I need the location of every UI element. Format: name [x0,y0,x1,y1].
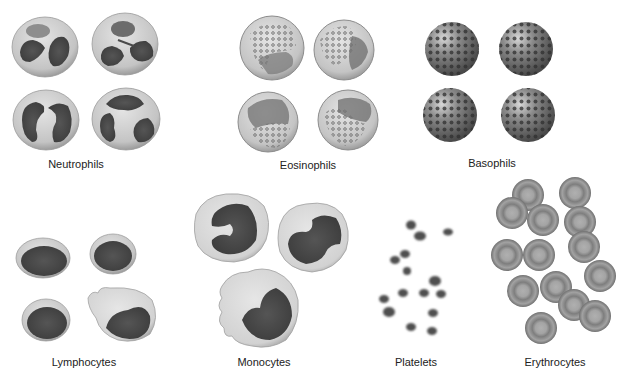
cell-illustrations [0,0,631,377]
platelet [406,323,416,331]
platelet [400,250,410,258]
neutrophil-cell [13,90,79,150]
label-platelets: Platelets [395,356,437,368]
erythrocyte [584,260,616,292]
platelet-group [379,221,453,336]
eosinophil-group [238,16,378,152]
platelet [383,307,395,317]
erythrocyte [496,197,528,229]
label-lymphocytes: Lymphocytes [52,356,116,368]
platelet [419,289,429,297]
erythrocyte [559,177,591,209]
lymphocyte-group [16,234,156,341]
basophil-cell [499,22,553,76]
eosinophil-cell [238,92,298,152]
label-basophils: Basophils [468,157,516,169]
platelet [427,327,437,335]
eosinophil-cell [240,16,304,80]
platelet [379,295,389,303]
platelet [398,289,408,297]
neutrophil-cell [12,17,78,77]
lymphocyte-cell [90,234,136,274]
label-eosinophils: Eosinophils [280,159,336,171]
platelet [436,290,446,298]
platelet [443,229,453,236]
erythrocyte [527,204,559,236]
label-neutrophils: Neutrophils [48,158,104,170]
neutrophil-group [12,13,160,150]
erythrocyte-group [491,177,616,344]
platelet [428,309,438,317]
label-erythrocytes: Erythrocytes [524,356,585,368]
basophil-cell [425,22,479,76]
lymphocyte-cell [16,238,70,278]
erythrocyte [507,275,539,307]
eosinophil-cell [318,90,378,150]
monocyte-cell [278,203,348,272]
erythrocyte [568,231,600,263]
erythrocyte [491,239,523,271]
platelet [406,221,416,230]
lymphocyte-cell [22,299,70,341]
blood-cell-types-figure: Neutrophils Eosinophils Basophils Lympho… [0,0,631,377]
platelet [403,267,411,275]
erythrocyte [579,300,611,332]
monocyte-cell [219,269,298,347]
neutrophil-cell [92,13,158,75]
basophil-cell [501,88,555,142]
platelet [414,232,426,241]
eosinophil-cell [314,20,374,80]
platelet [390,256,400,264]
basophil-group [423,22,555,142]
neutrophil-cell [92,88,160,150]
erythrocyte [525,312,557,344]
label-monocytes: Monocytes [237,356,290,368]
lymphocyte-cell [88,288,156,342]
monocyte-cell [194,194,268,262]
erythrocyte [523,239,555,271]
basophil-cell [423,88,477,142]
platelet [429,276,441,286]
monocyte-group [194,194,348,347]
